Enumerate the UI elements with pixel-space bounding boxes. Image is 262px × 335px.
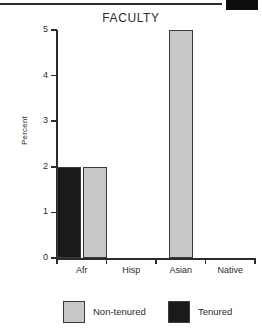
- x-axis-tick: [254, 258, 256, 264]
- legend-swatch-tenured: [168, 301, 190, 323]
- x-axis-category-label: Asian: [156, 266, 206, 275]
- x-axis-category-label: Native: [205, 266, 255, 275]
- x-axis-category-label: Hisp: [106, 266, 156, 275]
- bar-tenured: [57, 167, 81, 258]
- legend-swatch-non-tenured: [63, 301, 85, 323]
- y-axis-tick-label: 1: [30, 207, 48, 216]
- x-axis-tick: [205, 258, 207, 264]
- y-axis-tick-label: 4: [30, 71, 48, 80]
- y-axis-label: Percent: [20, 101, 29, 161]
- legend-item-non-tenured: Non-tenured: [63, 298, 146, 326]
- top-horizontal-rule: [0, 3, 222, 5]
- x-axis-tick: [56, 258, 58, 264]
- bars-layer: [57, 30, 255, 258]
- x-axis-tick: [106, 258, 108, 264]
- top-black-block: [226, 0, 258, 10]
- y-axis-tick-label: 3: [30, 116, 48, 125]
- legend-label-non-tenured: Non-tenured: [93, 307, 146, 317]
- y-axis-tick-label: 0: [30, 253, 48, 262]
- x-axis-category-label: Afr: [57, 266, 107, 275]
- chart-title: FACULTY: [0, 11, 262, 25]
- legend-label-tenured: Tenured: [198, 307, 232, 317]
- y-axis-tick-label: 5: [30, 25, 48, 34]
- bar-non-tenured: [169, 30, 193, 258]
- y-axis-tick-label: 2: [30, 162, 48, 171]
- faculty-bar-chart: FACULTY Percent 012345 AfrHispAsianNativ…: [0, 0, 262, 335]
- bar-non-tenured: [83, 167, 107, 258]
- chart-legend: Non-tenured Tenured: [0, 298, 262, 330]
- x-axis-tick: [155, 258, 157, 264]
- legend-item-tenured: Tenured: [168, 298, 232, 326]
